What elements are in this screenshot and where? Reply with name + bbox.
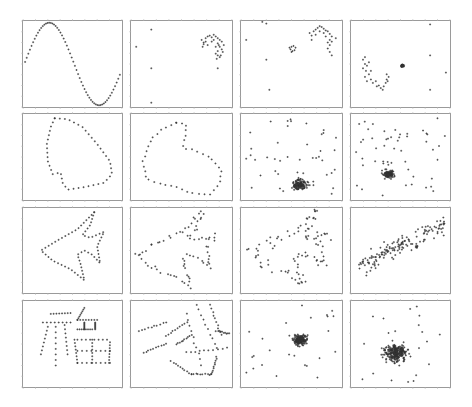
data-point <box>327 42 329 44</box>
data-point <box>79 319 81 321</box>
data-point <box>183 282 185 284</box>
data-point <box>119 74 121 76</box>
data-point <box>363 343 365 345</box>
data-point <box>76 359 78 361</box>
data-point <box>321 251 323 253</box>
data-point <box>45 254 47 256</box>
scatter-panel-r3-c2 <box>130 207 233 294</box>
data-point <box>106 339 108 341</box>
data-point <box>445 72 447 74</box>
scatter-plot-area <box>23 301 122 387</box>
data-point <box>91 355 93 357</box>
data-point <box>307 255 309 257</box>
data-point <box>372 123 374 125</box>
data-point <box>315 157 317 159</box>
data-point <box>392 247 394 249</box>
data-point <box>40 353 42 355</box>
data-point <box>383 318 385 320</box>
scatter-plot-area <box>351 21 450 107</box>
data-point <box>151 243 153 245</box>
data-point <box>371 137 373 139</box>
data-point <box>406 245 408 247</box>
data-point <box>304 364 306 366</box>
data-point <box>55 331 57 333</box>
data-point <box>86 350 88 352</box>
data-point <box>425 141 427 143</box>
data-point <box>156 268 158 270</box>
data-point <box>317 264 319 266</box>
data-point <box>73 339 75 341</box>
data-point <box>325 36 327 38</box>
data-point <box>437 159 439 161</box>
data-point <box>42 345 44 347</box>
data-point <box>85 91 87 93</box>
data-point <box>400 150 402 152</box>
data-point <box>215 330 217 332</box>
data-point <box>208 255 210 257</box>
data-point <box>248 331 250 333</box>
data-point <box>216 347 218 349</box>
data-point <box>43 342 45 344</box>
data-point <box>184 267 186 269</box>
data-point <box>108 356 110 358</box>
data-point <box>387 351 389 353</box>
data-point <box>221 48 223 50</box>
data-point <box>257 254 259 256</box>
data-point <box>207 261 209 263</box>
data-point <box>296 271 298 273</box>
data-point <box>176 232 178 234</box>
data-point <box>329 51 331 53</box>
data-point <box>91 342 93 344</box>
data-point <box>391 242 393 244</box>
data-point <box>198 352 200 354</box>
scatter-plot-area <box>23 208 122 293</box>
data-point <box>383 145 385 147</box>
data-point <box>297 227 299 229</box>
data-point <box>207 246 209 248</box>
data-point <box>187 284 189 286</box>
data-point <box>254 159 256 161</box>
data-point <box>165 321 167 323</box>
data-point <box>186 370 188 372</box>
data-point <box>293 258 295 260</box>
data-point <box>318 156 320 158</box>
data-point <box>87 252 89 254</box>
data-point <box>207 251 209 253</box>
data-point <box>152 348 154 350</box>
data-point <box>384 249 386 251</box>
data-point <box>41 349 43 351</box>
data-point <box>203 349 205 351</box>
data-point <box>55 359 57 361</box>
data-point <box>83 277 85 279</box>
data-point <box>55 337 57 339</box>
data-point <box>406 236 408 238</box>
data-point <box>398 248 400 250</box>
data-point <box>429 226 431 228</box>
data-point <box>65 337 67 339</box>
data-point <box>111 92 113 94</box>
data-point <box>208 258 210 260</box>
data-point <box>366 271 368 273</box>
data-point <box>100 350 102 352</box>
data-point <box>211 41 213 43</box>
data-point <box>439 334 441 336</box>
data-point <box>416 236 418 238</box>
data-point <box>78 187 80 189</box>
data-point <box>170 237 172 239</box>
data-point <box>170 124 172 126</box>
data-point <box>189 255 191 257</box>
data-point <box>291 187 293 189</box>
data-point <box>114 85 116 87</box>
data-point <box>293 45 295 47</box>
data-point <box>391 379 393 381</box>
data-point <box>81 350 83 352</box>
data-point <box>291 46 293 48</box>
data-point <box>369 270 371 272</box>
data-point <box>82 309 84 311</box>
data-point <box>439 220 441 222</box>
data-point <box>69 52 71 54</box>
data-point <box>309 184 311 186</box>
data-point <box>288 335 290 337</box>
data-point <box>205 238 207 240</box>
data-point <box>196 304 198 306</box>
